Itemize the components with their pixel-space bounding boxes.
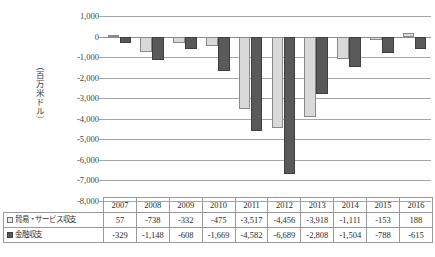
y-axis-tick-label: -2,000 [57,74,99,83]
table-header-year: 2011 [235,198,268,213]
bar-trade-services [140,37,152,52]
y-axis-tick-label: 0 [57,33,99,42]
data-table: 2007200820092010201120122013201420152016… [3,197,433,243]
table-cell-value: -3,517 [235,213,268,228]
table-header-year: 2009 [169,198,202,213]
legend-label: 貿易・サービス収支 [15,215,76,224]
bar-group [267,16,300,201]
bar-trade-services [304,37,316,118]
plot-area: 1,0000-1,000-2,000-3,000-4,000-5,000-6,0… [103,16,431,201]
bar-trade-services [206,37,218,47]
bar-trade-services [239,37,251,109]
bar-trade-services [370,37,382,40]
y-axis-tick-label: -1,000 [57,53,99,62]
y-axis-tick-label: -5,000 [57,135,99,144]
table-header-year: 2015 [367,198,400,213]
bar-financial [251,37,263,131]
table-cell-value: -329 [104,228,137,243]
table-cell-value: -153 [367,213,400,228]
table-cell-value: -1,148 [136,228,169,243]
y-axis-tick-label: -6,000 [57,156,99,165]
table-cell-value: 188 [400,213,433,228]
table-header-year: 2013 [301,198,334,213]
table-cell-value: -6,689 [268,228,301,243]
legend-swatch-trade-icon [7,217,13,223]
legend-label: 金融収支 [15,230,42,239]
bar-group [136,16,169,201]
y-axis-tick-label: -3,000 [57,94,99,103]
y-axis-label: （百万米ドル） [28,62,44,125]
table-cell-value: -475 [202,213,235,228]
bar-group [300,16,333,201]
bar-trade-services [108,35,120,37]
legend-trade-services: 貿易・サービス収支 [4,213,104,228]
bar-group [333,16,366,201]
table-cell-value: -1,111 [334,213,367,228]
bar-financial [349,37,361,68]
legend-financial: 金融収支 [4,228,104,243]
table-header-year: 2014 [334,198,367,213]
bar-financial [185,37,197,49]
table-header-year: 2008 [136,198,169,213]
table-cell-value: -788 [367,228,400,243]
table-cell-value: 57 [104,213,137,228]
bar-trade-services [337,37,349,60]
y-axis-tick-label: -7,000 [57,176,99,185]
y-axis-tick-label: -4,000 [57,115,99,124]
table-cell-value: -3,918 [301,213,334,228]
bar-group [201,16,234,201]
bar-trade-services [173,37,185,44]
table-cell-value: -1,504 [334,228,367,243]
table-header-row: 2007200820092010201120122013201420152016 [4,198,433,213]
bar-financial [218,37,230,71]
chart-figure: （百万米ドル） 1,0000-1,000-2,000-3,000-4,000-5… [0,0,435,257]
bar-group [365,16,398,201]
table-cell-value: -738 [136,213,169,228]
bar-series-container [103,16,431,201]
table-header-year: 2010 [202,198,235,213]
bar-financial [120,37,132,44]
legend-swatch-financial-icon [7,232,13,238]
bar-financial [152,37,164,61]
bar-group [103,16,136,201]
table-row: 金融収支-329-1,148-608-1,669-4,582-6,689-2,8… [4,228,433,243]
table-cell-value: -4,456 [268,213,301,228]
bar-financial [316,37,328,95]
table-header-year: 2016 [400,198,433,213]
bar-trade-services [403,33,415,37]
table-cell-value: -608 [169,228,202,243]
bar-group [169,16,202,201]
table-row: 貿易・サービス収支57-738-332-475-3,517-4,456-3,91… [4,213,433,228]
bar-group [234,16,267,201]
table-cell-value: -4,582 [235,228,268,243]
bar-financial [382,37,394,53]
table-cell-value: -2,808 [301,228,334,243]
table-cell-value: -332 [169,213,202,228]
bar-group [398,16,431,201]
table-header-blank-cell [4,198,104,213]
bar-financial [284,37,296,174]
bar-trade-services [272,37,284,129]
table-cell-value: -1,669 [202,228,235,243]
y-axis-tick-label: 1,000 [57,12,99,21]
table-header-year: 2012 [268,198,301,213]
table-cell-value: -615 [400,228,433,243]
bar-financial [415,37,427,50]
table-header-year: 2007 [104,198,137,213]
